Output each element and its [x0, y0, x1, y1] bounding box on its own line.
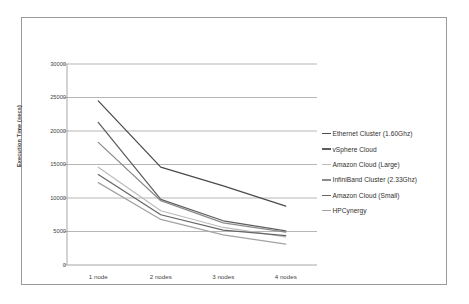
x-tick-label: 3 nodes: [212, 273, 234, 280]
y-tick-label: 10000: [32, 195, 66, 201]
legend-label: HPCynergy: [333, 207, 367, 214]
y-tick-label: 20000: [32, 128, 66, 134]
legend-color-swatch: [322, 148, 331, 149]
y-tick-label: 25000: [32, 94, 66, 100]
chart-legend: Ethernet Cluster (1.60Ghz)vSphere CloudA…: [322, 126, 462, 218]
series-line: [98, 101, 286, 206]
x-tick-label: 1 node: [89, 273, 108, 280]
legend-item[interactable]: InfiniBand Cluster (2.33Ghz): [322, 172, 462, 187]
legend-color-swatch: [322, 133, 331, 134]
legend-item[interactable]: Amazon Cloud (Large): [322, 157, 462, 172]
legend-label: Ethernet Cluster (1.60Ghz): [333, 130, 413, 137]
legend-color-swatch: [322, 179, 331, 180]
series-line: [98, 183, 286, 245]
legend-label: Amazon Cloud (Small): [333, 192, 400, 199]
legend-item[interactable]: HPCynergy: [322, 203, 462, 218]
legend-item[interactable]: vSphere Cloud: [322, 141, 462, 156]
legend-item[interactable]: Amazon Cloud (Small): [322, 188, 462, 203]
y-tick-label: 5000: [32, 228, 66, 234]
legend-label: Amazon Cloud (Large): [333, 161, 400, 168]
legend-item[interactable]: Ethernet Cluster (1.60Ghz): [322, 126, 462, 141]
legend-label: vSphere Cloud: [333, 146, 377, 153]
y-axis-tick-labels: 050001000015000200002500030000: [30, 0, 66, 304]
data-series-group: [98, 101, 286, 244]
legend-label: InfiniBand Cluster (2.33Ghz): [333, 176, 418, 183]
y-tick-label: 0: [32, 262, 66, 268]
legend-color-swatch: [322, 195, 331, 196]
x-tick-label: 4 nodes: [275, 273, 297, 280]
y-tick-label: 30000: [32, 61, 66, 67]
y-tick-label: 15000: [32, 161, 66, 167]
x-tick-label: 2 nodes: [150, 273, 172, 280]
y-axis-title: Execution Time (secs): [16, 76, 22, 196]
legend-color-swatch: [322, 210, 331, 211]
legend-color-swatch: [322, 164, 331, 165]
